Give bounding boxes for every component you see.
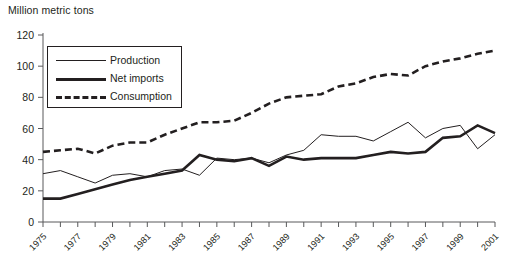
x-axis-label: 1995 [375, 231, 396, 252]
x-axis-label: 1999 [444, 231, 465, 252]
dashed-line-swatch [56, 91, 106, 101]
legend-label-production: Production [110, 55, 160, 66]
chart-container: Million metric tons 02040608010012019751… [0, 0, 511, 278]
y-axis-label: 0 [28, 216, 34, 228]
chart-plot-area: 0204060801001201975197719791981198319851… [0, 0, 511, 278]
x-axis-label: 1979 [97, 231, 118, 252]
x-axis-label: 1989 [271, 231, 292, 252]
x-axis-label: 2001 [479, 231, 500, 252]
x-axis-label: 1997 [410, 231, 431, 252]
x-axis-label: 1975 [27, 231, 48, 252]
legend-item-production: Production [56, 51, 160, 69]
y-axis-label: 80 [22, 91, 34, 103]
x-axis-label: 1983 [166, 231, 187, 252]
legend-label-consumption: Consumption [110, 91, 172, 102]
x-axis-label: 1993 [340, 231, 361, 252]
x-axis-label: 1985 [201, 231, 222, 252]
y-axis-label: 60 [22, 123, 34, 135]
x-axis-label: 1977 [62, 231, 83, 252]
thin-line-swatch [56, 55, 106, 65]
x-axis-label: 1991 [305, 231, 326, 252]
x-axis-label: 1981 [131, 231, 152, 252]
y-axis-label: 120 [16, 29, 34, 41]
thick-line-swatch [56, 73, 106, 83]
series-line-production [43, 122, 495, 183]
legend-label-net-imports: Net imports [110, 73, 164, 84]
legend-item-net-imports: Net imports [56, 69, 164, 87]
y-axis-label: 100 [16, 60, 34, 72]
x-axis-label: 1987 [236, 231, 257, 252]
legend-item-consumption: Consumption [56, 87, 172, 105]
chart-legend: Production Net imports Consumption [47, 46, 182, 108]
y-axis-label: 20 [22, 185, 34, 197]
y-axis-label: 40 [22, 154, 34, 166]
